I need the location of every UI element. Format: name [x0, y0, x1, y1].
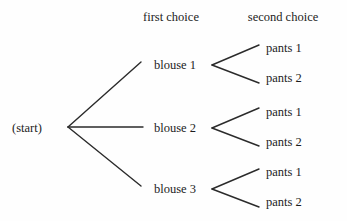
edge-start-to-blouse-0: [68, 62, 141, 127]
second-choice-edge-group: [212, 45, 259, 207]
node-blouse-3-pants-2: pants 2: [266, 196, 302, 209]
edge-start-to-blouse-2: [68, 127, 141, 186]
column-header-second-choice: second choice: [248, 11, 318, 24]
tree-diagram-canvas: first choice second choice (start) blous…: [0, 0, 347, 221]
edge-blouse-to-pants-3: [212, 128, 259, 146]
node-blouse-3: blouse 3: [154, 183, 196, 196]
node-blouse-2-pants-1: pants 1: [266, 106, 302, 119]
node-blouse-3-pants-1: pants 1: [266, 166, 302, 179]
edge-blouse-to-pants-4: [212, 169, 259, 189]
edge-blouse-to-pants-2: [212, 108, 259, 128]
first-choice-edge-group: [68, 62, 143, 186]
node-blouse-2: blouse 2: [154, 122, 196, 135]
node-blouse-1-pants-2: pants 2: [266, 72, 302, 85]
edge-blouse-to-pants-5: [212, 189, 259, 207]
node-start: (start): [12, 122, 42, 135]
edge-blouse-to-pants-0: [212, 45, 259, 65]
column-header-first-choice: first choice: [143, 11, 199, 24]
edge-blouse-to-pants-1: [212, 65, 259, 83]
node-blouse-2-pants-2: pants 2: [266, 136, 302, 149]
node-blouse-1-pants-1: pants 1: [266, 42, 302, 55]
node-blouse-1: blouse 1: [154, 59, 196, 72]
